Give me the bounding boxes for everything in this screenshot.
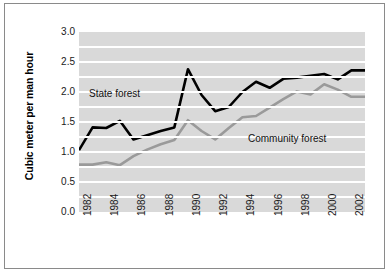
y-tick-label-3: 3.0	[45, 27, 75, 37]
y-tick-label-0: 0.0	[45, 207, 75, 217]
chart-screenshot: Cubic meter per man hour 3.0 2.5 2.0 1.5…	[0, 0, 391, 276]
x-tick-label-2000: 2000	[328, 194, 338, 216]
gridline	[79, 76, 365, 78]
y-tick-label-1_5: 1.5	[45, 117, 75, 127]
x-tick-label-1986: 1986	[137, 194, 147, 216]
x-tick-label-1982: 1982	[83, 194, 93, 216]
y-tick-label-2_5: 2.5	[45, 57, 75, 67]
x-tick-label-1990: 1990	[192, 194, 202, 216]
x-tick-label-1992: 1992	[219, 194, 229, 216]
series-label-community-forest: Community forest	[248, 133, 326, 144]
gridline	[79, 181, 365, 183]
x-tick-label-1996: 1996	[274, 194, 284, 216]
gridline	[79, 121, 365, 123]
gridline	[79, 151, 365, 153]
y-tick-label-0_5: 0.5	[45, 177, 75, 187]
line-chart: Cubic meter per man hour 3.0 2.5 2.0 1.5…	[0, 0, 391, 276]
gridline	[79, 46, 365, 48]
x-tick-label-1984: 1984	[110, 194, 120, 216]
y-tick-label-1: 1.0	[45, 147, 75, 157]
gridline	[79, 106, 365, 108]
x-tick-label-1998: 1998	[301, 194, 311, 216]
gridline	[79, 61, 365, 63]
gridline	[79, 166, 365, 168]
series-label-state-forest: State forest	[89, 88, 140, 99]
x-tick-label-2002: 2002	[355, 194, 365, 216]
y-tick-label-2: 2.0	[45, 87, 75, 97]
x-tick-label-1988: 1988	[165, 194, 175, 216]
x-tick-label-1994: 1994	[246, 194, 256, 216]
plot-area	[79, 32, 365, 212]
